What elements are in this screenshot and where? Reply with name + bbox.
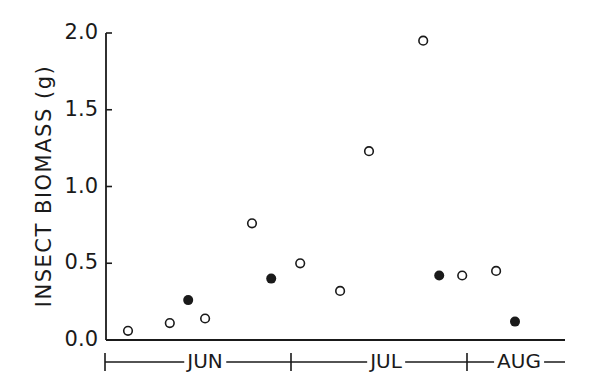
filled-data-point [183, 295, 193, 305]
filled-data-point [434, 271, 444, 281]
open-data-point [336, 287, 345, 296]
month-label-jun: JUN [184, 349, 226, 373]
open-data-point [365, 147, 374, 156]
open-data-point [296, 259, 305, 268]
open-data-point [458, 271, 467, 280]
month-label-aug: AUG [494, 349, 544, 373]
month-label-jul: JUL [367, 349, 405, 373]
open-data-point [201, 314, 210, 323]
y-tick-label: 1.5 [48, 97, 98, 121]
open-data-point [166, 319, 175, 328]
open-data-point [419, 36, 428, 45]
scatter-chart: INSECT BIOMASS (g) 0.00.51.01.52.0 JUNJU… [0, 0, 590, 392]
filled-data-point [510, 317, 520, 327]
y-tick-label: 0.5 [48, 250, 98, 274]
y-tick-label: 0.0 [48, 327, 98, 351]
open-data-point [248, 219, 257, 228]
open-data-point [492, 267, 501, 276]
filled-data-point [266, 274, 276, 284]
y-tick-label: 1.0 [48, 174, 98, 198]
open-data-point [124, 327, 133, 336]
y-tick-label: 2.0 [48, 20, 98, 44]
